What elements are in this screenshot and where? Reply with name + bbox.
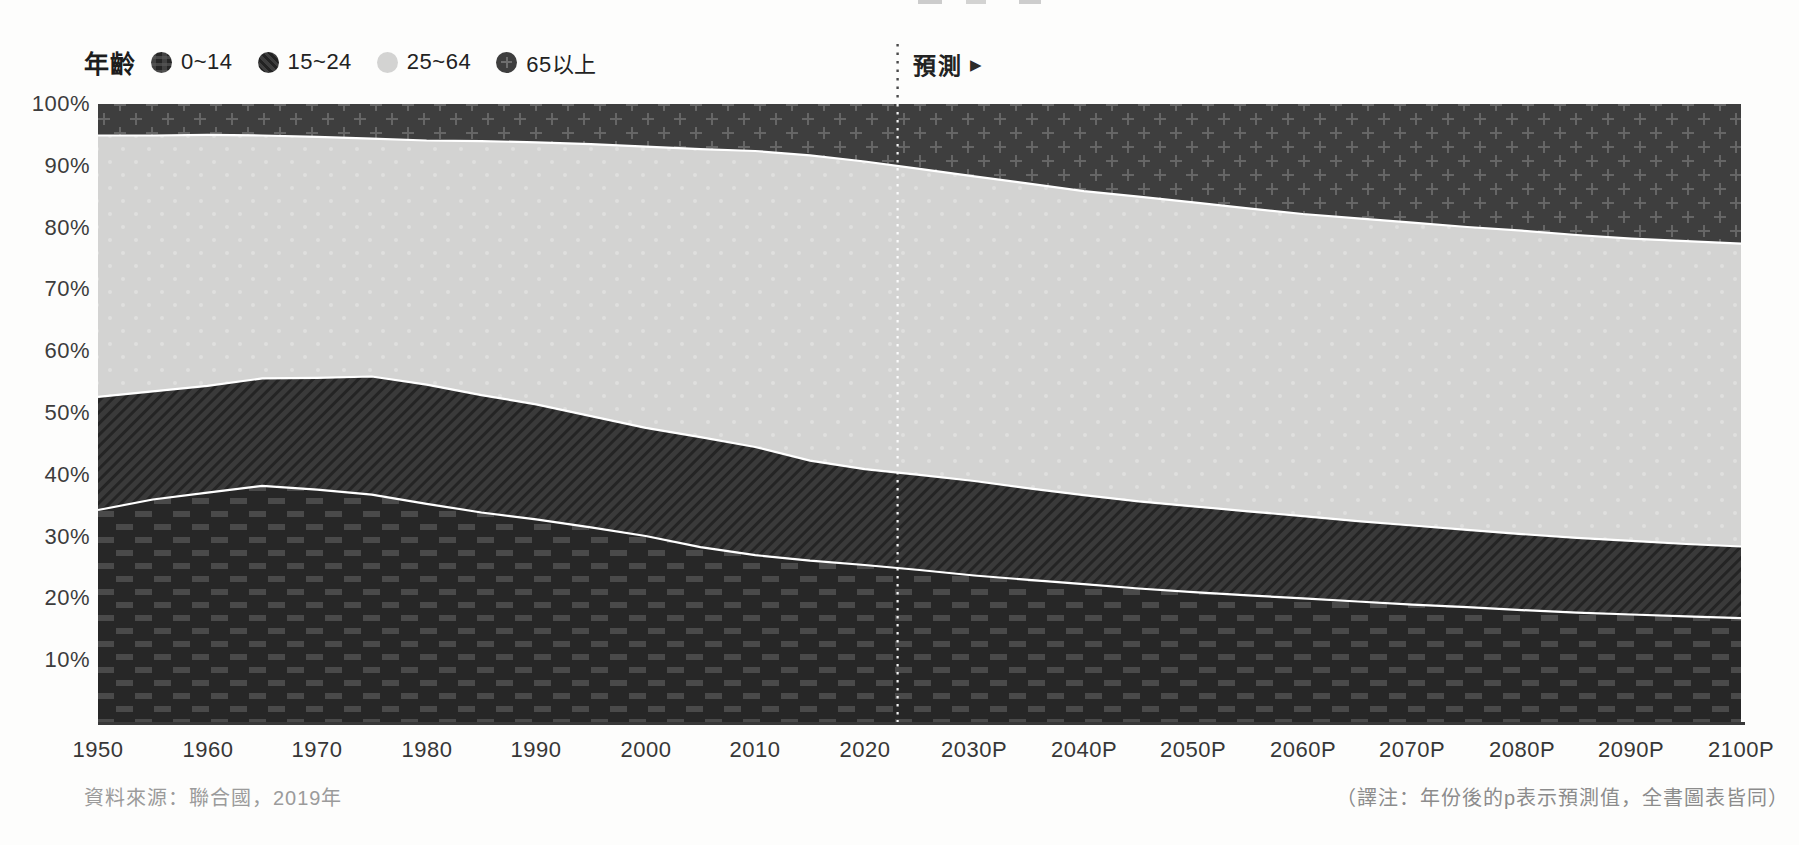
x-tick-label-1960: 1960 bbox=[183, 737, 234, 763]
swatch-15-24-icon bbox=[258, 52, 279, 73]
legend-label: 15~24 bbox=[288, 49, 352, 75]
legend-item-25-64: 25~64 bbox=[377, 49, 471, 75]
x-tick-label-2010: 2010 bbox=[730, 737, 781, 763]
x-tick-label-2070P: 2070P bbox=[1379, 737, 1445, 763]
source-note: 資料來源：聯合國，2019年 bbox=[84, 782, 343, 811]
y-tick-label-70: 70% bbox=[0, 277, 90, 301]
y-tick-label-60: 60% bbox=[0, 339, 90, 363]
swatch-65-plus-icon bbox=[496, 52, 517, 73]
y-tick-label-80: 80% bbox=[0, 216, 90, 240]
stacked-area-chart bbox=[0, 0, 1799, 845]
x-tick-label-1950: 1950 bbox=[73, 737, 124, 763]
x-tick-label-2020: 2020 bbox=[840, 737, 891, 763]
swatch-0-14-icon bbox=[151, 52, 172, 73]
y-tick-label-10: 10% bbox=[0, 648, 90, 672]
forecast-label: 預測 bbox=[913, 47, 963, 81]
x-tick-label-2060P: 2060P bbox=[1270, 737, 1336, 763]
y-tick-label-90: 90% bbox=[0, 154, 90, 178]
legend-label: 0~14 bbox=[181, 49, 233, 75]
book-page: 年齡 0~14 15~24 25~64 65以上 預測 ▶ 100%90%80%… bbox=[0, 0, 1799, 845]
forecast-label-group: 預測 ▶ bbox=[913, 47, 982, 81]
cropped-title-remnant bbox=[918, 0, 1041, 4]
legend-item-15-24: 15~24 bbox=[258, 49, 352, 75]
legend-label: 65以上 bbox=[526, 46, 596, 78]
y-tick-label-50: 50% bbox=[0, 401, 90, 425]
y-tick-label-100: 100% bbox=[0, 92, 90, 116]
y-axis: 100%90%80%70%60%50%40%30%20%10% bbox=[0, 0, 90, 845]
x-tick-label-2040P: 2040P bbox=[1051, 737, 1117, 763]
x-tick-label-1980: 1980 bbox=[402, 737, 453, 763]
y-tick-label-20: 20% bbox=[0, 586, 90, 610]
x-tick-label-2100P: 2100P bbox=[1708, 737, 1774, 763]
x-tick-label-2050P: 2050P bbox=[1160, 737, 1226, 763]
x-tick-label-2000: 2000 bbox=[621, 737, 672, 763]
legend: 年齡 0~14 15~24 25~64 65以上 bbox=[84, 44, 622, 80]
y-tick-label-30: 30% bbox=[0, 525, 90, 549]
legend-title: 年齡 bbox=[84, 44, 136, 80]
x-tick-label-2030P: 2030P bbox=[941, 737, 1007, 763]
x-tick-label-2090P: 2090P bbox=[1598, 737, 1664, 763]
swatch-25-64-icon bbox=[377, 52, 398, 73]
legend-item-65-plus: 65以上 bbox=[496, 46, 596, 78]
legend-label: 25~64 bbox=[407, 49, 471, 75]
forecast-arrow-icon: ▶ bbox=[970, 54, 982, 74]
translator-note: （譯注：年份後的p表示預測值，全書圖表皆同） bbox=[1336, 782, 1789, 811]
x-tick-label-2080P: 2080P bbox=[1489, 737, 1555, 763]
x-tick-label-1990: 1990 bbox=[511, 737, 562, 763]
y-tick-label-40: 40% bbox=[0, 463, 90, 487]
area-layers bbox=[98, 104, 1741, 722]
x-tick-label-1970: 1970 bbox=[292, 737, 343, 763]
x-axis: 195019601970198019902000201020202030P204… bbox=[0, 737, 1799, 769]
legend-item-0-14: 0~14 bbox=[151, 49, 233, 75]
